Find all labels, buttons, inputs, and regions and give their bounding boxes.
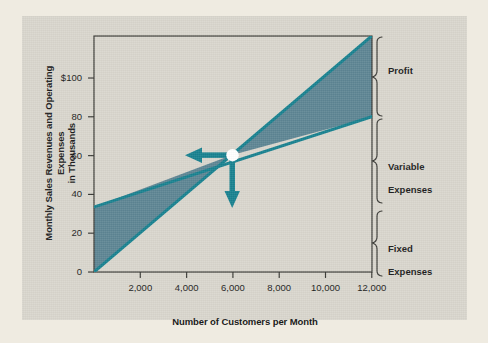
x-tick-label-4000: 4,000 — [161, 282, 213, 293]
x-tick-label-12000: 12,000 — [346, 282, 398, 293]
bracket-label-variable-line1: Variable — [388, 161, 424, 172]
x-tick-label-8000: 8,000 — [253, 282, 305, 293]
break-even-marker — [226, 149, 238, 161]
bracket-label-fixed-expenses: Fixed Expenses — [388, 231, 432, 277]
bracket-group — [372, 37, 382, 276]
bracket-label-variable-expenses: Variable Expenses — [388, 149, 432, 195]
chart-figure: $100 80 60 40 20 0 2,000 4,000 6,000 8,0… — [22, 16, 467, 320]
y-axis-ticks — [88, 78, 94, 272]
x-axis-title: Number of Customers per Month — [100, 316, 390, 328]
x-tick-label-2000: 2,000 — [114, 282, 166, 293]
y-tick-label-0: 0 — [36, 266, 82, 277]
down-arrow-icon — [225, 158, 240, 208]
y-axis-title: Monthly Sales Revenues and Operating Exp… — [43, 53, 78, 253]
y-axis-title-line1: Monthly Sales Revenues and Operating Exp… — [43, 66, 66, 241]
bracket-label-variable-line2: Expenses — [388, 184, 432, 195]
y-axis-title-line2: in Thousands — [66, 123, 77, 184]
x-tick-label-10000: 10,000 — [300, 282, 352, 293]
x-axis-ticks — [140, 272, 371, 278]
bracket-fixed-expenses — [372, 211, 382, 276]
bracket-label-profit: Profit — [388, 65, 413, 77]
x-tick-label-6000: 6,000 — [207, 282, 259, 293]
bracket-profit — [372, 37, 382, 116]
bracket-variable-expenses — [372, 119, 382, 203]
bracket-label-fixed-line2: Expenses — [388, 266, 432, 277]
bracket-label-fixed-line1: Fixed — [388, 243, 413, 254]
